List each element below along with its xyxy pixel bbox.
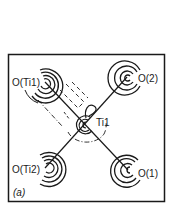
contour-o-ti2 [40, 153, 66, 187]
label-ti1: Ti1 [96, 117, 110, 128]
contour-o1 [111, 155, 140, 187]
contour-map-diagram: O(Ti1) O(2) Ti1 O(Ti2) O(1) (a) [0, 0, 179, 211]
label-o-ti2: O(Ti2) [12, 164, 40, 175]
label-o-ti1: O(Ti1) [12, 77, 40, 88]
label-o1: O(1) [138, 168, 158, 179]
label-o2: O(2) [138, 73, 158, 84]
panel-label: (a) [13, 187, 25, 198]
contour-o2 [108, 61, 140, 95]
